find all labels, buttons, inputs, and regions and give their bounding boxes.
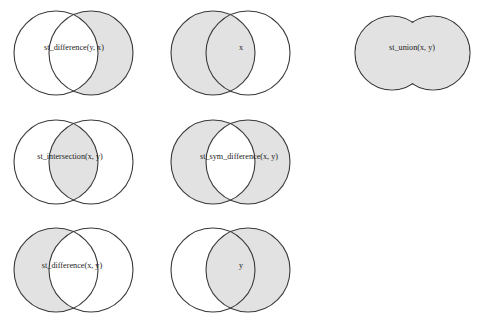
venn-svg-union: st_union(x, y) [333, 0, 483, 108]
panel-st-union-x-y: st_union(x, y) [333, 0, 483, 108]
venn-svg-difference-x-y: st_difference(x, y) [0, 217, 150, 321]
venn-svg-y: y [157, 217, 307, 321]
panel-label: st_union(x, y) [389, 43, 435, 52]
panel-label: st_intersection(x, y) [37, 152, 103, 161]
panel-st-intersection-x-y: st_intersection(x, y) [0, 109, 150, 217]
panel-st-difference-x-y: st_difference(x, y) [0, 217, 150, 321]
venn-svg-sym-difference: st_sym_difference(x, y) [157, 109, 307, 217]
panel-label: st_difference(x, y) [42, 261, 103, 270]
panel-label: st_sym_difference(x, y) [200, 152, 278, 161]
venn-svg-intersection: st_intersection(x, y) [0, 109, 150, 217]
panel-st-sym-difference-x-y: st_sym_difference(x, y) [157, 109, 307, 217]
venn-svg-difference-y-x: st_difference(y, x) [0, 0, 150, 108]
panel-x: x [157, 0, 307, 108]
venn-svg-x: x [157, 0, 307, 108]
panel-label: st_difference(y, x) [44, 43, 104, 52]
panel-st-difference-y-x: st_difference(y, x) [0, 0, 150, 108]
panel-y: y [157, 217, 307, 321]
venn-diagram-figure: st_difference(y, x) x [0, 0, 483, 321]
panel-label: x [239, 43, 243, 52]
